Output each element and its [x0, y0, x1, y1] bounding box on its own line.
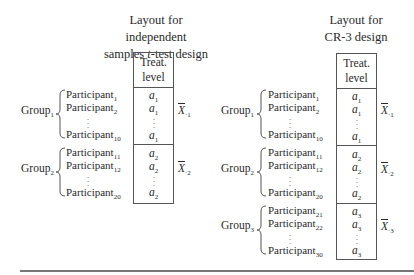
right-layout-title: Layout for CR-3 design [316, 12, 396, 46]
left-participant: Participant20 [66, 186, 121, 201]
left-header-line1: Treat. [134, 55, 173, 70]
left-participant: Participant2 [66, 101, 117, 116]
left-group1-mean: X·1 [178, 104, 191, 119]
left-header-line2: level [134, 70, 173, 85]
right-group3-mean: X·3 [381, 220, 394, 235]
right-participant: Participant20 [268, 186, 323, 201]
right-participant: Participant2 [268, 101, 319, 116]
right-group1-mean: X·1 [381, 104, 394, 119]
vertical-ellipsis: ··· [354, 118, 360, 130]
right-group3-label: Group3 [221, 219, 254, 234]
right-participant: Participant10 [268, 128, 323, 143]
vertical-ellipsis: ··· [151, 117, 157, 129]
right-group1-brace-icon [257, 89, 267, 139]
right-group3-brace-icon [257, 205, 267, 255]
table-cell: a2 [337, 187, 376, 202]
right-title-line2: CR-3 design [316, 29, 396, 46]
table-cell: a1 [134, 129, 173, 144]
right-group-divider [337, 203, 376, 204]
table-cell: a2 [134, 186, 173, 201]
left-participant: Participant10 [66, 128, 121, 143]
left-title-line1: Layout for independent [100, 12, 212, 46]
left-treatment-header: Treat. level [134, 53, 173, 88]
left-group2-label: Group2 [21, 162, 54, 177]
left-group2-mean: X·2 [178, 162, 191, 177]
right-group1-label: Group1 [221, 104, 254, 119]
left-treatment-table: Treat. level a1 a1 ··· a1 a2 a2 ··· a2 [133, 52, 174, 204]
right-header-line1: Treat. [337, 56, 376, 71]
left-participant: Participant12 [66, 159, 121, 174]
right-group2-brace-icon [257, 147, 267, 197]
left-group2-brace-icon [56, 147, 66, 197]
right-header-line2: level [337, 71, 376, 86]
left-group1-label: Group1 [21, 104, 54, 119]
right-title-line1: Layout for [316, 12, 396, 29]
right-participant: Participant22 [268, 217, 323, 232]
right-participant: Participant12 [268, 159, 323, 174]
left-group1-brace-icon [56, 89, 66, 139]
table-cell: a3 [337, 244, 376, 259]
right-treatment-table: Treat. level a1 a1 ··· a1 a2 a2 ··· a2 a… [336, 53, 377, 260]
right-group2-mean: X·2 [381, 163, 394, 178]
right-treatment-header: Treat. level [337, 54, 376, 89]
bottom-rule-divider [20, 270, 414, 272]
right-participant: Participant30 [268, 244, 323, 259]
right-group2-label: Group2 [221, 162, 254, 177]
table-cell: a1 [337, 130, 376, 145]
